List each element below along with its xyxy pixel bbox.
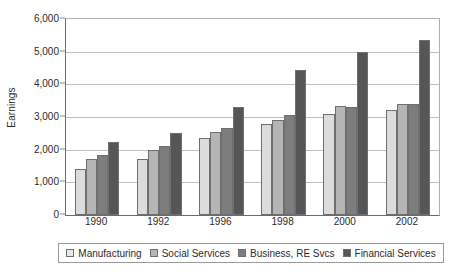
x-axis-tick-label: 1992 (147, 216, 169, 227)
legend-label: Manufacturing (78, 248, 141, 259)
bar-group (75, 19, 120, 215)
chart-legend: ManufacturingSocial ServicesBusiness, RE… (58, 243, 444, 263)
bar (397, 104, 408, 215)
bar (221, 128, 232, 215)
y-axis-tick-label: 3,000 (34, 111, 59, 122)
bar-group (199, 19, 244, 215)
plot-area (65, 18, 440, 216)
bar-group (261, 19, 306, 215)
bar (159, 146, 170, 215)
x-axis-tick-label: 2000 (334, 216, 356, 227)
bar (210, 132, 221, 215)
bar (335, 106, 346, 215)
bar-groups (66, 19, 439, 215)
y-axis-tick-label: 0 (53, 209, 59, 220)
bar (284, 115, 295, 215)
legend-entry: Business, RE Svcs (238, 248, 334, 259)
y-axis-title-label: Earnings (6, 87, 17, 127)
legend-entry: Financial Services (343, 248, 436, 259)
bar (357, 52, 368, 215)
y-axis-tick-label: 4,000 (34, 78, 59, 89)
legend-entry: Social Services (150, 248, 230, 259)
bar (272, 120, 283, 215)
y-axis-tick-label: 5,000 (34, 45, 59, 56)
bar (408, 104, 419, 215)
legend-label: Business, RE Svcs (250, 248, 334, 259)
bar (97, 155, 108, 215)
x-axis-tick-label: 1998 (271, 216, 293, 227)
bar (419, 40, 430, 215)
bar (108, 142, 119, 216)
bar-group (323, 19, 368, 215)
legend-swatch-icon (343, 249, 351, 257)
bar (386, 110, 397, 215)
bar (148, 150, 159, 215)
x-axis-tick-labels: 199019921996199820002002 (65, 216, 438, 234)
bar (75, 169, 86, 215)
legend-swatch-icon (150, 249, 158, 257)
bar-chart: Earnings 01,0002,0003,0004,0005,0006,000… (0, 0, 456, 276)
legend-label: Financial Services (355, 248, 436, 259)
bar (346, 107, 357, 215)
bar (295, 70, 306, 215)
y-axis-tick-labels: 01,0002,0003,0004,0005,0006,000 (20, 0, 65, 276)
legend-swatch-icon (238, 249, 246, 257)
legend-entry: Manufacturing (66, 248, 141, 259)
bar-group (386, 19, 431, 215)
x-axis-tick-label: 1996 (209, 216, 231, 227)
bar (261, 124, 272, 215)
legend-swatch-icon (66, 249, 74, 257)
y-axis-tick-label: 6,000 (34, 13, 59, 24)
bar (170, 133, 181, 215)
bar-group (137, 19, 182, 215)
x-axis-tick-label: 2002 (396, 216, 418, 227)
bar (199, 138, 210, 215)
bar (137, 159, 148, 215)
bar (323, 114, 334, 215)
legend-label: Social Services (162, 248, 230, 259)
y-axis-title: Earnings (2, 0, 20, 214)
bar (86, 159, 97, 215)
x-axis-tick-label: 1990 (85, 216, 107, 227)
bar (233, 107, 244, 215)
y-axis-tick-label: 2,000 (34, 143, 59, 154)
y-axis-tick-label: 1,000 (34, 176, 59, 187)
